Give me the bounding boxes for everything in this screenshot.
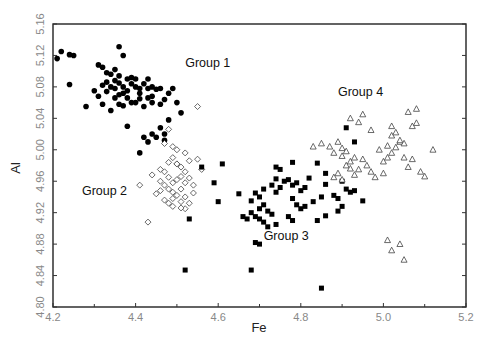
data-point bbox=[368, 169, 374, 175]
data-point bbox=[137, 182, 143, 188]
data-point bbox=[331, 150, 337, 156]
data-point bbox=[125, 123, 131, 129]
scatter-chart: 4.24.44.64.85.05.24.804.844.884.924.965.… bbox=[0, 0, 485, 349]
data-point bbox=[212, 180, 217, 185]
data-point bbox=[257, 242, 262, 247]
data-point bbox=[323, 171, 328, 176]
data-point bbox=[364, 162, 370, 168]
data-point bbox=[137, 90, 143, 96]
data-point bbox=[158, 86, 164, 92]
data-point bbox=[352, 139, 357, 144]
data-point bbox=[100, 101, 106, 107]
data-point bbox=[112, 95, 118, 101]
y-tick-label: 4.80 bbox=[34, 296, 46, 317]
data-point bbox=[302, 204, 307, 209]
data-point bbox=[286, 214, 291, 219]
data-point bbox=[269, 212, 274, 217]
data-point bbox=[376, 147, 382, 153]
data-point bbox=[261, 220, 266, 225]
data-point bbox=[413, 120, 419, 126]
data-point bbox=[220, 161, 225, 166]
data-point bbox=[116, 73, 122, 79]
y-tick-label: 4.84 bbox=[34, 265, 46, 286]
data-point bbox=[145, 76, 151, 82]
data-point bbox=[397, 241, 403, 247]
data-point bbox=[157, 178, 163, 184]
series-group-1 bbox=[54, 44, 184, 156]
data-point bbox=[319, 194, 324, 199]
data-point bbox=[149, 172, 155, 178]
data-point bbox=[186, 200, 192, 206]
plot-frame bbox=[53, 24, 466, 307]
data-point bbox=[393, 144, 399, 150]
data-point bbox=[290, 196, 295, 201]
data-point bbox=[178, 199, 184, 205]
y-tick-label: 5.04 bbox=[34, 108, 46, 129]
data-point bbox=[67, 82, 73, 88]
data-point bbox=[116, 80, 122, 86]
data-point bbox=[141, 134, 147, 140]
data-point bbox=[274, 176, 279, 181]
data-point bbox=[125, 95, 131, 101]
x-tick-label: 4.8 bbox=[293, 311, 308, 323]
data-point bbox=[380, 170, 386, 176]
data-point bbox=[112, 86, 118, 92]
data-point bbox=[294, 180, 299, 185]
series-group-3 bbox=[183, 125, 366, 290]
data-point bbox=[315, 218, 320, 223]
data-point bbox=[153, 134, 159, 140]
data-point bbox=[104, 89, 110, 95]
data-points bbox=[54, 44, 436, 291]
data-point bbox=[340, 204, 345, 209]
data-point bbox=[401, 257, 407, 263]
data-point bbox=[112, 67, 118, 73]
x-tick-label: 5.0 bbox=[376, 311, 391, 323]
data-point bbox=[174, 100, 180, 106]
data-point bbox=[261, 202, 266, 207]
data-point bbox=[418, 169, 424, 175]
y-tick-label: 4.96 bbox=[34, 171, 46, 192]
data-point bbox=[170, 86, 176, 92]
data-point bbox=[310, 143, 316, 149]
data-point bbox=[286, 177, 291, 182]
group-label: Group 4 bbox=[338, 85, 383, 99]
data-point bbox=[311, 199, 316, 204]
group-annotations: Group 1Group 2Group 3Group 4 bbox=[82, 56, 383, 243]
data-point bbox=[344, 125, 349, 130]
data-point bbox=[183, 268, 188, 273]
data-point bbox=[96, 94, 102, 100]
data-point bbox=[116, 44, 122, 50]
data-point bbox=[141, 81, 147, 87]
data-point bbox=[116, 101, 122, 107]
y-axis-title: Al bbox=[8, 162, 23, 174]
data-point bbox=[58, 49, 64, 55]
data-point bbox=[351, 172, 357, 178]
data-point bbox=[413, 106, 419, 112]
data-point bbox=[195, 104, 201, 110]
y-tick-label: 5.08 bbox=[34, 76, 46, 97]
data-point bbox=[389, 247, 395, 253]
data-point bbox=[401, 154, 407, 160]
data-point bbox=[92, 88, 98, 94]
data-point bbox=[360, 111, 366, 117]
data-point bbox=[182, 180, 188, 186]
data-point bbox=[307, 176, 312, 181]
data-point bbox=[108, 72, 114, 78]
data-point bbox=[216, 199, 221, 204]
data-point bbox=[352, 188, 357, 193]
data-point bbox=[137, 96, 143, 102]
data-point bbox=[190, 190, 196, 196]
data-point bbox=[302, 185, 307, 190]
data-point bbox=[356, 119, 362, 125]
data-point bbox=[319, 286, 324, 291]
data-point bbox=[249, 198, 254, 203]
data-point bbox=[71, 53, 77, 59]
data-point bbox=[385, 143, 391, 149]
data-point bbox=[339, 145, 345, 151]
data-point bbox=[397, 137, 403, 143]
data-point bbox=[290, 160, 295, 165]
data-point bbox=[347, 115, 353, 121]
x-tick-label: 4.2 bbox=[45, 311, 60, 323]
data-point bbox=[149, 100, 155, 106]
data-point bbox=[100, 64, 106, 70]
